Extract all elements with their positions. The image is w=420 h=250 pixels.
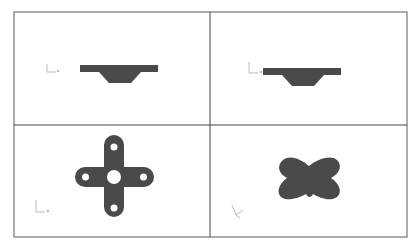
viewport-top-left[interactable] — [47, 64, 158, 83]
viewport-bottom-right[interactable] — [232, 158, 340, 218]
viewport-top-right[interactable] — [249, 62, 341, 86]
side-triad-icon — [249, 62, 262, 73]
flanged-profile-side — [263, 68, 341, 86]
iso-triad-icon — [232, 205, 243, 218]
cross-plate-with-holes — [75, 135, 154, 217]
flanged-profile-front — [80, 65, 158, 83]
cad-four-view-drawing — [0, 0, 420, 250]
front-triad-icon — [47, 64, 59, 72]
cross-plate-iso — [279, 158, 340, 200]
top-triad-icon — [36, 200, 49, 212]
viewport-bottom-left[interactable] — [36, 135, 154, 217]
viewport-frame — [14, 12, 407, 237]
